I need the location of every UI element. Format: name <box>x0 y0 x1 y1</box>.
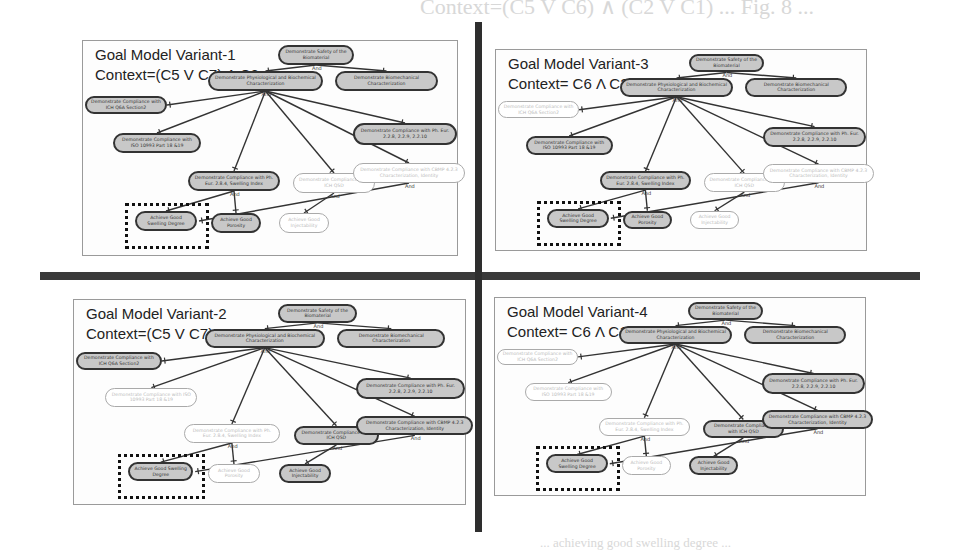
link-physio-ich_q6a <box>579 97 676 110</box>
goal-node-cbmp[interactable]: Demonstrate Compliance with CBMP 4.2.3 C… <box>353 163 465 183</box>
link-tick <box>170 102 171 108</box>
goal-node-swelling-index[interactable]: Demonstrate Compliance with Ph. Eur. 2.8… <box>600 171 691 190</box>
goal-node-cbmp[interactable]: Demonstrate Compliance with CBMP 4.2.3 C… <box>762 410 873 428</box>
variant-panel-3: Goal Model Variant-3Context= C6 Λ C2AndA… <box>495 49 867 251</box>
link-physio-ich_q5d <box>676 344 744 419</box>
highlighted-goal-selection <box>125 203 209 249</box>
link-physio-ph_eur <box>265 348 411 379</box>
link-root-physio <box>265 323 318 329</box>
link-physio-swelling_index <box>645 97 676 172</box>
goal-node-ph-eur[interactable]: Demonstrate Compliance with Ph. Eur. 2.2… <box>762 373 865 393</box>
goal-node-injectability[interactable]: Achieve Good Injectability <box>279 213 329 233</box>
and-decomposition-label: And <box>411 435 421 441</box>
variant-panel-1: Goal Model Variant-1Context=(C5 V C7) Λ … <box>82 40 458 256</box>
link-root-biomech <box>318 323 392 329</box>
link-tick <box>164 358 165 364</box>
goal-node-biomech[interactable]: Demonstrate Biomechanical Characterizati… <box>335 71 438 91</box>
link-physio-ph_eur <box>266 91 406 123</box>
goal-node-injectability[interactable]: Achieve Good Injectability <box>689 456 738 474</box>
variant-panel-4: Goal Model Variant-4Context= C6 Λ C1AndA… <box>494 297 866 496</box>
and-decomposition-label: And <box>815 183 825 189</box>
goal-node-root[interactable]: Demonstrate Safety of the Biomaterial <box>688 302 763 320</box>
link-root-physio <box>676 320 726 326</box>
link-physio-swelling_index <box>644 344 675 418</box>
goal-node-porosity[interactable]: Achieve Good Porosity <box>208 464 260 483</box>
and-decomposition-label: And <box>405 183 415 189</box>
link-physio-ich_q5d <box>677 97 745 174</box>
goal-node-porosity[interactable]: Achieve Good Porosity <box>623 211 672 230</box>
goal-node-ph-eur[interactable]: Demonstrate Compliance with Ph. Eur. 2.2… <box>353 123 457 145</box>
link-tick <box>643 453 649 454</box>
goal-node-biomech[interactable]: Demonstrate Biomechanical Characterizati… <box>745 78 847 97</box>
goal-node-ich-q6a[interactable]: Demonstrate Compliance with ICH Q6A Sect… <box>497 349 578 366</box>
link-physio-ich_q5d <box>266 91 335 173</box>
variant-panel-2: Goal Model Variant-2Context=(C5 V C7) Λ … <box>73 299 466 505</box>
goal-node-ph-eur[interactable]: Demonstrate Compliance with Ph. Eur. 2.2… <box>356 378 465 399</box>
goal-node-iso[interactable]: Demonstrate Compliance with ISO 10993 Pa… <box>525 383 612 401</box>
highlighted-goal-selection <box>118 454 205 499</box>
background-paper-text-1: Context=(C5 V C6) ∧ (C2 V C1) ... Fig. 8… <box>420 0 814 20</box>
and-decomposition-label: And <box>261 348 271 354</box>
goal-node-swelling-index[interactable]: Demonstrate Compliance with Ph. Eur. 2.8… <box>184 424 280 443</box>
highlighted-goal-selection <box>537 201 620 246</box>
and-decomposition-label: And <box>228 443 238 449</box>
goal-node-iso[interactable]: Demonstrate Compliance with ISO 10993 Pa… <box>105 388 197 407</box>
and-decomposition-label: And <box>814 429 824 435</box>
goal-node-physio[interactable]: Demonstrate Physiological and Biochemica… <box>208 71 323 91</box>
and-decomposition-label: And <box>740 192 750 198</box>
goal-node-cbmp[interactable]: Demonstrate Compliance with CBMP 4.2.3 C… <box>763 164 874 183</box>
goal-node-root[interactable]: Demonstrate Safety of the Biomaterial <box>689 54 764 73</box>
link-tick <box>581 354 582 360</box>
goal-node-biomech[interactable]: Demonstrate Biomechanical Characterizati… <box>744 326 846 344</box>
and-decomposition-label: And <box>640 436 650 442</box>
and-decomposition-label: And <box>332 445 342 451</box>
goal-node-physio[interactable]: Demonstrate Physiological and Biochemica… <box>619 326 733 344</box>
goal-node-physio[interactable]: Demonstrate Physiological and Biochemica… <box>620 78 734 97</box>
goal-node-injectability[interactable]: Achieve Good Injectability <box>279 464 331 483</box>
link-tick <box>582 106 583 112</box>
background-paper-text-3: ... achieving good swelling degree ... <box>540 535 731 551</box>
link-physio-iso <box>157 91 266 133</box>
link-root-biomech <box>726 320 796 326</box>
goal-node-cbmp[interactable]: Demonstrate Compliance with CBMP 4.2.3 C… <box>356 416 473 435</box>
link-physio-swelling_index <box>234 91 266 171</box>
link-physio-iso <box>568 344 675 383</box>
goal-node-iso[interactable]: Demonstrate Compliance with ISO 10993 Pa… <box>526 136 613 155</box>
highlighted-goal-selection <box>536 446 619 490</box>
goal-node-physio[interactable]: Demonstrate Physiological and Biochemica… <box>205 329 325 348</box>
and-decomposition-label: And <box>673 97 683 103</box>
goal-node-porosity[interactable]: Achieve Good Porosity <box>622 456 671 474</box>
and-decomposition-label: And <box>314 323 324 329</box>
link-physio-ich_q5d <box>265 348 337 426</box>
link-tick <box>644 207 650 208</box>
and-decomposition-label: And <box>230 191 240 197</box>
and-decomposition-label: And <box>330 193 340 199</box>
link-physio-ph_eur <box>677 97 815 127</box>
goal-node-ph-eur[interactable]: Demonstrate Compliance with Ph. Eur. 2.2… <box>763 127 866 148</box>
vertical-divider <box>475 22 482 532</box>
link-tick <box>231 461 237 462</box>
link-physio-ich_q6a <box>162 348 265 361</box>
goal-node-iso[interactable]: Demonstrate Compliance with ISO 10993 Pa… <box>113 133 201 153</box>
link-physio-ph_eur <box>676 344 814 373</box>
link-tick <box>233 210 239 211</box>
goal-node-root[interactable]: Demonstrate Safety of the Biomaterial <box>278 45 354 65</box>
goal-node-ich-q6a[interactable]: Demonstrate Compliance with ICH Q6A Sect… <box>76 352 162 369</box>
link-physio-iso <box>569 97 676 136</box>
link-physio-swelling_index <box>232 348 265 424</box>
and-decomposition-label: And <box>672 344 682 350</box>
goal-node-injectability[interactable]: Achieve Good Injectability <box>690 211 739 230</box>
link-physio-ich_q6a <box>578 344 675 357</box>
goal-node-biomech[interactable]: Demonstrate Biomechanical Characterizati… <box>337 329 445 348</box>
goal-node-ich-q6a[interactable]: Demonstrate Compliance with ICH Q6A Sect… <box>498 101 579 118</box>
and-decomposition-label: And <box>739 438 749 444</box>
goal-node-ich-q6a[interactable]: Demonstrate Compliance with ICH Q6A Sect… <box>85 96 167 114</box>
goal-node-swelling-index[interactable]: Demonstrate Compliance with Ph. Eur. 2.8… <box>599 418 690 436</box>
goal-node-root[interactable]: Demonstrate Safety of the Biomaterial <box>278 304 357 323</box>
goal-node-swelling-index[interactable]: Demonstrate Compliance with Ph. Eur. 2.8… <box>188 171 280 191</box>
link-physio-ich_q6a <box>167 91 266 105</box>
and-decomposition-label: And <box>641 190 651 196</box>
goal-node-porosity[interactable]: Achieve Good Porosity <box>211 213 261 233</box>
link-physio-iso <box>151 348 264 388</box>
and-decomposition-label: And <box>262 91 272 97</box>
